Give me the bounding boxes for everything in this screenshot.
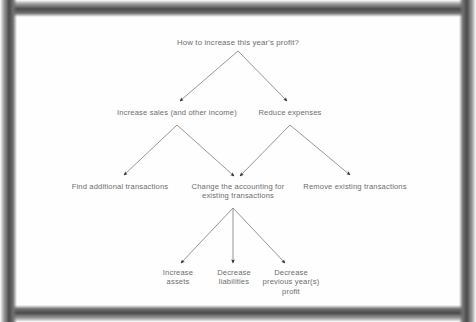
- photo-frame-border: [0, 0, 476, 322]
- diagram-screenshot: How to increase this year's profit? Incr…: [0, 0, 476, 322]
